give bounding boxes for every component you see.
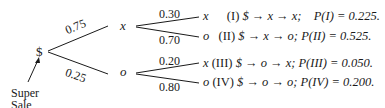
- outcome-path: $ → x → o;: [238, 29, 298, 43]
- outcome-id: (III): [212, 56, 233, 70]
- outcome-probability: P(II) = 0.525.: [301, 29, 371, 43]
- node-x: x: [120, 20, 126, 32]
- outcome-probability: P(III) = 0.050.: [298, 56, 372, 70]
- prob-o-o: 0.80: [159, 81, 180, 93]
- outcome-probability: P(I) = 0.225.: [314, 9, 380, 23]
- outcome-probability: P(IV) = 0.200.: [301, 75, 375, 89]
- leaf-node: o: [203, 75, 209, 89]
- node-o: o: [120, 66, 127, 78]
- outcome-path: $ → x → x;: [242, 9, 301, 23]
- leaf-node: x: [203, 9, 209, 23]
- outcome-path: $ → o → o;: [237, 75, 297, 89]
- outcome-row-II: o (II) $ → x → o; P(II) = 0.525.: [203, 30, 371, 43]
- leaf-node: o: [203, 29, 209, 43]
- prob-x-x: 0.30: [159, 8, 180, 20]
- leaf-node: x: [203, 56, 209, 70]
- outcome-row-III: x (III) $ → o → x; P(III) = 0.050.: [203, 57, 373, 70]
- prob-o-x: 0.20: [159, 55, 180, 67]
- outcome-row-IV: o (IV) $ → o → o; P(IV) = 0.200.: [203, 76, 374, 89]
- annotation-line2: Sale: [11, 99, 32, 108]
- root-node: $: [36, 46, 43, 58]
- outcome-path: $ → o → x;: [236, 56, 296, 70]
- outcome-id: (II): [219, 29, 236, 43]
- arrow-line: [28, 60, 38, 82]
- prob-x-o: 0.70: [159, 34, 180, 46]
- outcome-row-I: x (I) $ → x → x; P(I) = 0.225.: [203, 10, 380, 23]
- outcome-id: (IV): [212, 75, 234, 89]
- outcome-id: (I): [227, 9, 240, 23]
